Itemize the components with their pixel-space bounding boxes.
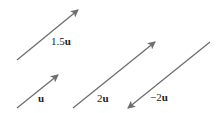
vector-label: 1.5u [51, 35, 71, 47]
vector-2u: 2u [73, 42, 155, 108]
vector-label: u [38, 92, 44, 104]
vector-label: −2u [150, 91, 168, 103]
vector-arrow [73, 42, 155, 108]
vector-u: u [17, 75, 58, 108]
vector-1-5u: 1.5u [17, 10, 78, 60]
vector-arrow [128, 42, 210, 108]
vector-neg2u: −2u [128, 42, 210, 108]
vector-label: 2u [97, 92, 109, 104]
vector-diagram: 1.5uu2u−2u [0, 0, 218, 113]
